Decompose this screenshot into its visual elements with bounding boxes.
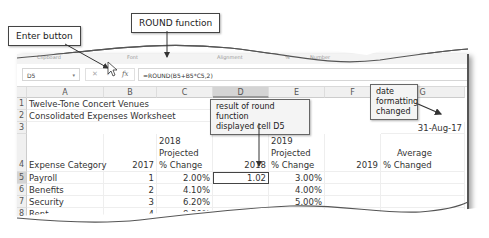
e4-line3: % Change [271, 159, 322, 171]
cell-g5[interactable] [381, 172, 465, 184]
formula-buttons: ✕ ✓ fx [85, 68, 135, 81]
cancel-icon[interactable]: ✕ [92, 70, 98, 78]
callout-date-formatting: date formatting changed [370, 84, 418, 120]
cell-e6[interactable]: 4.00% [269, 184, 325, 196]
cell-a1-title[interactable]: Twelve-Tone Concert Venues [27, 98, 227, 110]
row-header-6[interactable]: 6 [17, 184, 27, 196]
callout-enter-button: Enter button [8, 26, 81, 46]
row-header-1[interactable]: 1 [17, 98, 27, 110]
torn-edge-bottom-line [0, 200, 489, 238]
cell-a6[interactable]: Benefits [27, 184, 104, 196]
callout-date-line2: formatting [376, 97, 412, 107]
cell-c6[interactable]: 4.10% [157, 184, 213, 196]
c4-line2: Projected [159, 147, 210, 159]
g4-line2: % Changed [383, 159, 462, 171]
formula-input[interactable]: =ROUND(B5+B5*C5,2) [138, 68, 468, 81]
row-header-4[interactable]: 4 [17, 134, 27, 172]
cell-c5[interactable]: 2.00% [157, 172, 213, 184]
cell-g6[interactable] [381, 184, 465, 196]
callout-round-result-line1: result of round function [216, 102, 304, 122]
cell-f5[interactable] [325, 172, 381, 184]
col-header-b[interactable]: B [104, 87, 157, 98]
cell-b6[interactable]: 2 [104, 184, 157, 196]
cell-a2-subtitle[interactable]: Consolidated Expenses Worksheet [27, 110, 227, 122]
cell-c4-header[interactable]: 2018 Projected % Change [157, 134, 213, 172]
c4-line3: % Change [159, 159, 210, 171]
col-header-e[interactable]: E [269, 87, 325, 98]
row-header-2[interactable]: 2 [17, 110, 27, 122]
cell-d5-active[interactable]: 1.02 [213, 172, 269, 184]
cell-g3-date[interactable]: 31-Aug-17 [381, 122, 465, 134]
cell-a4-header[interactable]: Expense Category [27, 134, 104, 172]
e4-line2: Projected [271, 147, 322, 159]
chevron-down-icon[interactable]: ▾ [72, 69, 75, 82]
cell-f4-header[interactable]: 2019 [325, 134, 381, 172]
col-header-c[interactable]: C [157, 87, 213, 98]
callout-date-line1: date [376, 87, 412, 97]
callout-round-result-line2: displayed cell D5 [216, 122, 304, 132]
g4-line1: Average [383, 147, 462, 159]
select-all-corner[interactable] [17, 87, 27, 98]
enter-button-checkmark-icon[interactable]: ✓ [106, 70, 112, 78]
cell-b5[interactable]: 1 [104, 172, 157, 184]
name-box[interactable]: D5 ▾ [22, 68, 80, 81]
callout-round-result: result of round function displayed cell … [210, 99, 310, 135]
cell-e5[interactable]: 3.00% [269, 172, 325, 184]
insert-function-icon[interactable]: fx [122, 70, 129, 78]
cell-d4-header[interactable]: 2018 [213, 134, 269, 172]
cell-d6[interactable] [213, 184, 269, 196]
cell-a5[interactable]: Payroll [27, 172, 104, 184]
cell-f6[interactable] [325, 184, 381, 196]
callout-date-line3: changed [376, 107, 412, 117]
col-header-d[interactable]: D [213, 87, 269, 98]
cell-g4-header[interactable]: Average % Changed [381, 134, 465, 172]
cell-e4-header[interactable]: 2019 Projected % Change [269, 134, 325, 172]
e4-line1: 2019 [271, 135, 322, 147]
c4-line1: 2018 [159, 135, 210, 147]
row-header-3[interactable]: 3 [17, 122, 27, 134]
cell-b4-header[interactable]: 2017 [104, 134, 157, 172]
col-header-a[interactable]: A [27, 87, 104, 98]
name-box-value: D5 [27, 72, 35, 79]
callout-round-function: ROUND function [131, 13, 220, 33]
row-header-5[interactable]: 5 [17, 172, 27, 184]
